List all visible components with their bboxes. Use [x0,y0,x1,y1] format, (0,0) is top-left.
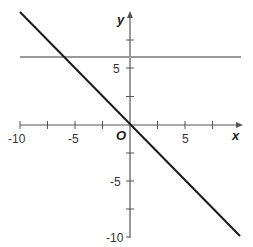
origin-label: O [116,128,126,143]
y-axis-label: y [116,12,125,27]
y-tick-label-neg10: -10 [106,231,124,245]
y-axis-arrow-icon [127,11,133,18]
x-axis-label: x [231,128,240,143]
y-tick-label-5: 5 [113,62,120,76]
coordinate-plane: -10 -5 5 x 5 -5 -10 y O [0,0,253,247]
x-tick-label-neg5: -5 [68,132,79,146]
x-tick-label-neg10: -10 [8,132,26,146]
x-tick-label-5: 5 [182,132,189,146]
y-tick-label-neg5: -5 [110,175,121,189]
